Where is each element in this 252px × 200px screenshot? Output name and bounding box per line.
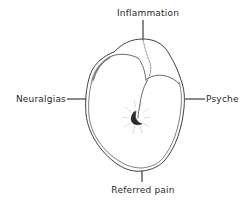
pulp-radiation <box>122 100 151 133</box>
label-neuralgias: Neuralgias <box>16 94 66 104</box>
label-psyche: Psyche <box>206 94 239 104</box>
label-inflammation: Inflammation <box>117 8 179 18</box>
label-referred-pain: Referred pain <box>111 185 174 195</box>
pain-diagram: Inflammation Neuralgias Psyche Referred … <box>0 0 252 200</box>
tooth-outline <box>86 39 185 171</box>
